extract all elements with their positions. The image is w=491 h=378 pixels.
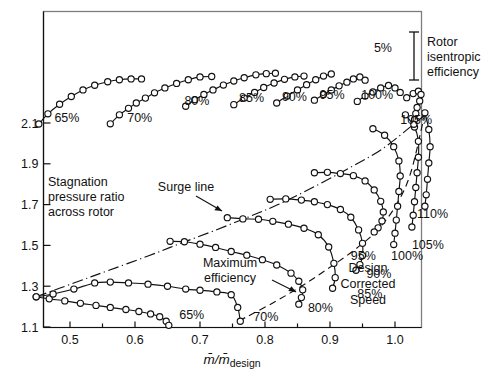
efficiency-line-point bbox=[142, 95, 148, 101]
speed-line-point bbox=[414, 170, 420, 176]
efficiency-line-point bbox=[263, 71, 269, 77]
speed-line-point bbox=[270, 218, 276, 224]
speed-line-point bbox=[123, 306, 129, 312]
speed-line-point bbox=[298, 197, 304, 203]
x-tick-label: 0.6 bbox=[126, 333, 143, 347]
speed-line-label-65pct: 65% bbox=[179, 308, 204, 322]
speed-line-point bbox=[145, 281, 151, 287]
speed-line-65pct bbox=[33, 294, 172, 329]
speed-line-point bbox=[50, 291, 56, 297]
speed-line-point bbox=[71, 286, 77, 292]
speed-line-point bbox=[324, 202, 330, 208]
efficiency-line-point bbox=[68, 93, 74, 99]
speed-line-point bbox=[228, 292, 234, 298]
efficiency-line-point bbox=[107, 121, 113, 127]
x-axis-title-sub: design bbox=[230, 357, 261, 369]
speed-line-point bbox=[311, 199, 317, 205]
efficiency-line-point bbox=[271, 80, 277, 86]
efficiency-line-point bbox=[174, 80, 180, 86]
speed-line-point bbox=[410, 212, 416, 218]
efficiency-line-point bbox=[272, 70, 278, 76]
efficiency-line-point bbox=[231, 78, 237, 84]
speed-line-point bbox=[107, 304, 113, 310]
efficiency-line-label-80pct: 80% bbox=[184, 94, 209, 108]
speed-line-point bbox=[301, 225, 307, 231]
speed-line-point bbox=[181, 239, 187, 245]
speed-line-point bbox=[183, 286, 189, 292]
design-speed-line3: Speed bbox=[350, 293, 386, 307]
compressor-map-figure: 0.50.60.70.80.91.01.11.31.51.71.92.1 65%… bbox=[0, 0, 491, 378]
efficiency-line-point bbox=[292, 74, 298, 80]
speed-line-point bbox=[331, 260, 337, 266]
efficiency-line-point bbox=[116, 112, 122, 118]
x-axis-title-main: m̄/m̄ bbox=[203, 352, 229, 367]
speed-line-label-80pct: 80% bbox=[308, 301, 333, 315]
speed-line-point bbox=[157, 314, 163, 320]
x-tick-label: 0.5 bbox=[61, 333, 78, 347]
speed-line-point bbox=[326, 244, 332, 250]
speed-line-point bbox=[427, 144, 433, 150]
speed-line-point bbox=[380, 209, 386, 215]
efficiency-line-point bbox=[328, 71, 334, 77]
speed-line-point bbox=[214, 289, 220, 295]
speed-line-point bbox=[411, 199, 417, 205]
efficiency-line-point bbox=[197, 74, 203, 80]
speed-line-point bbox=[267, 196, 273, 202]
efficiency-line-point bbox=[220, 82, 226, 88]
legend-line3: efficiency bbox=[427, 65, 480, 79]
y-tick-label: 1.3 bbox=[21, 280, 38, 294]
efficiency-line-point bbox=[105, 79, 111, 85]
speed-line-point bbox=[311, 170, 317, 176]
speed-line-point bbox=[415, 138, 421, 144]
y-tick-label: 1.5 bbox=[21, 239, 38, 253]
speed-line-point bbox=[148, 311, 154, 317]
speed-line-point bbox=[125, 280, 131, 286]
efficiency-line-point bbox=[185, 77, 191, 83]
speed-line-point bbox=[298, 295, 304, 301]
efficiency-line-point bbox=[261, 84, 267, 90]
surge-line-label: Surge line bbox=[158, 180, 214, 194]
efficiency-line-point bbox=[45, 111, 51, 117]
speed-line-point bbox=[197, 287, 203, 293]
speed-line-point bbox=[62, 298, 68, 304]
speed-line-point bbox=[283, 196, 289, 202]
speed-line-point bbox=[296, 278, 302, 284]
efficiency-line-label-70pct: 70% bbox=[127, 111, 152, 125]
efficiency-line-point bbox=[138, 76, 144, 82]
speed-line-label-105pct: 105% bbox=[412, 238, 444, 252]
speed-line-point bbox=[33, 294, 39, 300]
efficiency-line-point bbox=[241, 75, 247, 81]
efficiency-line-label-85pct: 85% bbox=[239, 91, 264, 105]
efficiency-line-point bbox=[320, 73, 326, 79]
speed-line-point bbox=[382, 132, 388, 138]
efficiency-scale-bar: 5% bbox=[374, 32, 419, 80]
speed-line-point bbox=[378, 198, 384, 204]
y-axis-title-line3: across rotor bbox=[48, 205, 114, 219]
design-speed-line1: Design bbox=[349, 261, 388, 275]
surge-line-annotation: Surge line bbox=[158, 180, 222, 211]
y-tick-label: 1.1 bbox=[21, 321, 38, 335]
speed-line-point bbox=[392, 230, 398, 236]
speed-line-point bbox=[77, 300, 83, 306]
speed-line-point bbox=[296, 301, 302, 307]
efficiency-line-point bbox=[354, 98, 360, 104]
speed-line-point bbox=[396, 188, 402, 194]
speed-line-point bbox=[93, 302, 99, 308]
efficiency-line-point bbox=[397, 89, 403, 95]
efficiency-line-point bbox=[274, 100, 280, 106]
legend-line2: isentropic bbox=[427, 50, 481, 64]
speed-line-point bbox=[370, 126, 376, 132]
speed-line-point bbox=[213, 244, 219, 250]
efficiency-line-point bbox=[162, 85, 168, 91]
efficiency-line-point bbox=[231, 102, 237, 108]
speed-line-point bbox=[359, 240, 365, 246]
speed-line-point bbox=[362, 178, 368, 184]
speed-line-point bbox=[136, 308, 142, 314]
speed-line-point bbox=[197, 241, 203, 247]
speed-line-point bbox=[395, 203, 401, 209]
speed-line-point bbox=[426, 160, 432, 166]
speed-line-point bbox=[235, 304, 241, 310]
efficiency-line-label-65pct: 65% bbox=[54, 111, 79, 125]
speed-line-point bbox=[166, 322, 172, 328]
efficiency-line-label-100pct: 100% bbox=[361, 88, 393, 102]
